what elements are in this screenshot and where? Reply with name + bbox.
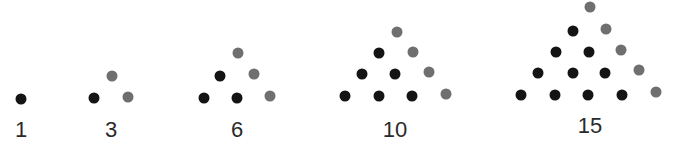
triangular-numbers-diagram: 1361015 — [0, 0, 688, 157]
gray-dot — [408, 47, 419, 58]
gray-dot — [123, 92, 134, 103]
gray-dot — [424, 67, 435, 78]
black-dot — [551, 47, 562, 58]
black-dot — [568, 68, 579, 79]
gray-dot — [265, 91, 276, 102]
triangle-label: 10 — [383, 119, 407, 141]
black-dot — [583, 90, 594, 101]
gray-dot — [233, 48, 244, 59]
triangle-label: 6 — [231, 119, 243, 141]
black-dot — [89, 93, 100, 104]
black-dot — [407, 91, 418, 102]
gray-dot — [601, 24, 612, 35]
black-dot — [199, 93, 210, 104]
black-dot — [568, 26, 579, 37]
black-dot — [357, 69, 368, 80]
triangle-label: 15 — [578, 115, 602, 137]
black-dot — [516, 90, 527, 101]
triangle-label: 1 — [15, 119, 27, 141]
black-dot — [617, 90, 628, 101]
gray-dot — [392, 27, 403, 38]
gray-dot — [634, 65, 645, 76]
black-dot — [340, 91, 351, 102]
black-dot — [584, 47, 595, 58]
gray-dot — [441, 89, 452, 100]
black-dot — [16, 94, 27, 105]
gray-dot — [585, 2, 596, 13]
black-dot — [374, 48, 385, 59]
black-dot — [533, 68, 544, 79]
black-dot — [374, 91, 385, 102]
black-dot — [600, 68, 611, 79]
gray-dot — [107, 71, 118, 82]
black-dot — [390, 69, 401, 80]
black-dot — [232, 93, 243, 104]
gray-dot — [616, 45, 627, 56]
black-dot — [550, 90, 561, 101]
triangle-label: 3 — [105, 119, 117, 141]
black-dot — [215, 71, 226, 82]
gray-dot — [651, 87, 662, 98]
gray-dot — [249, 69, 260, 80]
